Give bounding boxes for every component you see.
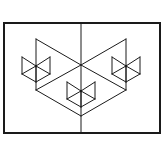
small-figure-right-edge xyxy=(126,74,140,82)
small-figure-right-edge xyxy=(126,57,140,66)
small-figure-right-edge xyxy=(126,66,140,74)
small-figure-left-edge xyxy=(36,74,50,82)
small-figure-right-edge xyxy=(112,66,126,74)
small-figure-middle-edge xyxy=(67,91,81,99)
small-figure-left-center-dot xyxy=(35,65,37,67)
isometric-diagram xyxy=(0,0,167,149)
small-figure-left-edge xyxy=(36,57,50,66)
diagram-canvas xyxy=(0,0,167,149)
small-figure-left-edge xyxy=(36,66,50,74)
outer-frame xyxy=(4,23,160,133)
small-figure-left-edge xyxy=(22,74,36,82)
small-figure-middle-center-dot xyxy=(80,90,82,92)
small-figure-right-edge xyxy=(112,74,126,82)
small-figure-middle-edge xyxy=(81,82,95,91)
small-figure-right-center-dot xyxy=(125,65,127,67)
small-figure-middle-edge xyxy=(81,99,95,107)
small-figure-middle-edge xyxy=(67,82,81,91)
small-figure-right-edge xyxy=(112,57,126,66)
small-figure-middle-edge xyxy=(67,99,81,107)
small-figure-left-edge xyxy=(22,66,36,74)
small-figure-middle-edge xyxy=(81,91,95,99)
small-figure-left-edge xyxy=(22,57,36,66)
